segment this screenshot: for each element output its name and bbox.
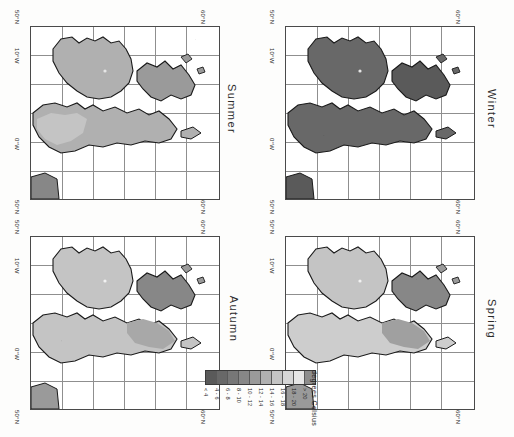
legend-label-8: 18 - 20: [291, 388, 297, 406]
tick-lon-lower: 0°W: [269, 348, 275, 360]
map-frame-winter: [285, 26, 475, 200]
temperature-choropleth-summer: [31, 27, 219, 199]
region-ireland: [308, 37, 388, 99]
tick-lon-upper: 10°W: [269, 258, 275, 274]
season-label-autumn: Autumn: [228, 296, 240, 342]
tick-lat-bottom-right: 60°N: [200, 200, 206, 214]
region-ireland: [308, 247, 388, 309]
tick-lon-lower: 0°W: [14, 348, 20, 360]
map-panel-winter: 50°N 60°N 50°N 60°N 10°W 0°W Winter: [259, 4, 508, 214]
tick-lon-lower: 0°W: [269, 138, 275, 150]
tick-lat-bottom-left: 50°N: [14, 410, 20, 424]
colorbar-swatch-5: [261, 371, 272, 384]
season-label-spring: Spring: [486, 299, 498, 339]
legend-label-1: 4 - 6: [214, 388, 220, 400]
tick-lat-top-right: 60°N: [200, 10, 206, 24]
region-england-wales: [288, 103, 432, 153]
tick-lon-upper: 10°W: [14, 48, 20, 64]
tick-lat-bottom-right: 60°N: [455, 200, 461, 214]
tick-lat-bottom-left: 50°N: [14, 200, 20, 214]
legend-label-5: 12 - 14: [258, 388, 264, 406]
colorbar-swatch-2: [228, 371, 239, 384]
tick-lon-upper: 10°W: [14, 258, 20, 274]
region-scotland: [392, 61, 450, 101]
tick-lat-top-left: 50°N: [269, 10, 275, 24]
temperature-choropleth-autumn: [31, 237, 219, 409]
region-continent-sliver: [286, 173, 314, 199]
scanned-figure-page: 50°N 60°N 50°N 60°N 10°W 0°W Summer: [0, 0, 514, 437]
tick-lat-top-left: 50°N: [14, 220, 20, 234]
region-scotland: [137, 271, 195, 311]
legend-label-2: 6 - 8: [225, 388, 231, 400]
legend-label-9: > 20: [302, 388, 308, 399]
legend-units-label: degrees Celsius: [311, 370, 318, 426]
colorbar-swatch-7: [283, 371, 294, 384]
tick-lat-top-left: 50°N: [14, 10, 20, 24]
legend-label-0: < 4: [203, 388, 209, 396]
colorbar-swatch-8: [294, 371, 305, 384]
legend-label-7: 16 - 18: [280, 388, 286, 406]
map-panel-summer: 50°N 60°N 50°N 60°N 10°W 0°W Summer: [4, 4, 253, 214]
colorbar-swatch-1: [217, 371, 228, 384]
tick-lon-upper: 10°W: [269, 48, 275, 64]
legend-label-4: 10 - 12: [247, 388, 253, 406]
season-label-winter: Winter: [486, 89, 498, 129]
colorbar-swatch-6: [272, 371, 283, 384]
colorbar-swatches: [205, 370, 316, 385]
season-label-summer: Summer: [226, 84, 238, 134]
tick-lat-top-left: 50°N: [269, 220, 275, 234]
colorbar-swatch-4: [250, 371, 261, 384]
colorbar-swatch-0: [206, 371, 217, 384]
tick-lat-top-right: 60°N: [455, 220, 461, 234]
region-scotland: [392, 271, 450, 311]
legend-label-6: 14 - 16: [269, 388, 275, 406]
map-frame-autumn: [30, 236, 220, 410]
tick-lat-bottom-left: 50°N: [269, 200, 275, 214]
legend: < 4 4 - 6 6 - 8 8 - 10 10 - 12 12 - 14 1…: [196, 366, 346, 434]
tick-lon-lower: 0°W: [14, 138, 20, 150]
region-scotland: [137, 61, 195, 101]
legend-label-3: 8 - 10: [236, 388, 242, 403]
colorbar-swatch-3: [239, 371, 250, 384]
region-continent-sliver: [31, 383, 59, 409]
map-frame-summer: [30, 26, 220, 200]
tick-lat-bottom-right: 60°N: [455, 410, 461, 424]
tick-lat-top-right: 60°N: [455, 10, 461, 24]
region-ireland: [53, 37, 133, 99]
temperature-choropleth-winter: [286, 27, 474, 199]
region-continent-sliver: [31, 173, 59, 199]
tick-lat-top-right: 60°N: [200, 220, 206, 234]
region-ireland: [53, 247, 133, 309]
